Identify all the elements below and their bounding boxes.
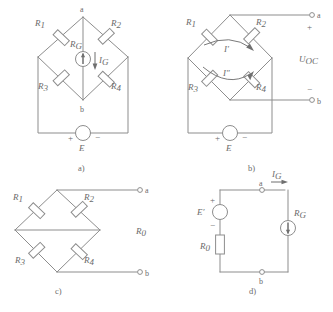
- resistor-a-r1-label: R1: [34, 18, 45, 30]
- source-b: [223, 126, 238, 141]
- resistor-a-r4-label: R4: [110, 81, 122, 93]
- panel-c: a b R1 R2 R3 R4 R0: [12, 186, 149, 296]
- resistor-a-r2-label: R2: [110, 18, 122, 30]
- open-circuit-voltage-label: UOC: [299, 54, 319, 66]
- terminal-c-a-label: a: [145, 186, 149, 195]
- resistor-c-r1-label: R1: [12, 192, 23, 204]
- polarity-b-minus: −: [307, 84, 312, 94]
- terminal-d-a-dot: [260, 188, 265, 193]
- resistor-c-r3-label: R3: [14, 255, 26, 267]
- resistor-d-r0-label: R0: [199, 241, 211, 253]
- source-a-minus: −: [95, 132, 100, 142]
- source-d-plus: +: [210, 195, 215, 205]
- galvanometer-d-label: RG: [293, 208, 307, 220]
- terminal-c-b-dot: [138, 270, 143, 275]
- galvanometer-d: [281, 221, 296, 236]
- terminal-b-a-dot: [310, 13, 315, 18]
- panel-a: R1 R2 R3 R4 RG: [34, 5, 128, 173]
- source-b-minus: −: [242, 132, 247, 142]
- resistor-a-r1: [53, 30, 69, 46]
- resistor-b-r4-label: R4: [255, 82, 267, 94]
- resistor-b-r1-label: R1: [185, 17, 196, 29]
- source-a-plus: +: [68, 133, 73, 143]
- current-arrow-a-ig: [93, 52, 98, 70]
- resistor-b-r3-label: R3: [187, 82, 199, 94]
- node-a-bottom-label: b: [80, 105, 84, 114]
- source-d-minus: −: [210, 220, 215, 230]
- terminal-c-b-label: b: [145, 269, 149, 278]
- current-d-ig-label: IG: [271, 169, 282, 181]
- resistor-b-r2: [244, 28, 260, 44]
- terminal-b-a-label: a: [317, 11, 321, 20]
- source-b-label: E: [225, 143, 232, 153]
- resistor-b-r2-label: R2: [255, 17, 267, 29]
- source-d-label: E′: [196, 207, 206, 217]
- loop-current-b-i-double-prime-label: I″: [222, 68, 230, 78]
- panel-b-caption: b): [248, 163, 255, 173]
- equivalent-resistance-c-label: R0: [135, 226, 147, 238]
- terminal-c-a-dot: [138, 188, 143, 193]
- resistor-a-r2: [98, 28, 114, 44]
- panel-c-caption: c): [55, 286, 62, 296]
- panel-a-caption: a): [78, 163, 85, 173]
- polarity-b-plus: +: [307, 22, 312, 32]
- terminal-d-a-label: a: [259, 179, 263, 188]
- terminal-b-b-label: b: [317, 97, 321, 106]
- source-b-plus: +: [215, 133, 220, 143]
- terminal-d-b-dot: [260, 270, 265, 275]
- resistor-c-r2: [71, 201, 87, 217]
- resistor-c-r1: [29, 203, 45, 219]
- source-a-label: E: [78, 143, 85, 153]
- panel-d-caption: d): [249, 286, 256, 296]
- panel-d: a b IG + − E′ R0: [196, 169, 307, 296]
- resistor-d-r0: [216, 235, 225, 254]
- galvanometer-a-label: RG: [69, 39, 83, 51]
- galvanometer-a: [76, 52, 91, 67]
- node-a-top-label: a: [80, 5, 84, 14]
- current-a-ig-label: IG: [98, 55, 109, 67]
- circuit-diagram-svg: R1 R2 R3 R4 RG: [0, 0, 333, 312]
- terminal-b-b-dot: [310, 98, 315, 103]
- terminal-d-b-label: b: [259, 277, 263, 286]
- loop-current-b-i-prime-label: I′: [223, 44, 230, 54]
- resistor-c-r3: [29, 242, 45, 258]
- resistor-a-r3: [53, 70, 69, 86]
- wire-b-source-loop: [188, 58, 272, 133]
- circuit-figure: R1 R2 R3 R4 RG: [0, 0, 333, 312]
- panel-b: a b R1 R2 R3 R4: [185, 11, 321, 173]
- resistor-c-r2-label: R2: [83, 192, 95, 204]
- source-a: [76, 126, 91, 141]
- resistor-c-r4-label: R4: [83, 255, 95, 267]
- source-d: [213, 205, 228, 220]
- resistor-a-r3-label: R3: [37, 81, 49, 93]
